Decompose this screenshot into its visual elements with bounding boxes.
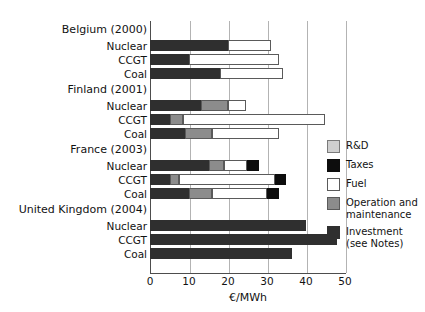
bar-segment bbox=[212, 188, 267, 199]
bar-segment bbox=[189, 54, 279, 65]
legend-swatch-icon bbox=[327, 197, 340, 210]
x-tick-label-50: 50 bbox=[338, 275, 351, 287]
stacked-bar[interactable] bbox=[150, 68, 283, 79]
stacked-bar[interactable] bbox=[150, 188, 279, 199]
bar-segment bbox=[189, 188, 212, 199]
bar-row bbox=[0, 67, 425, 81]
bar-row bbox=[0, 99, 425, 113]
bar-segment bbox=[179, 174, 275, 185]
x-tick-label-40: 40 bbox=[299, 275, 312, 287]
legend-swatch-icon bbox=[327, 178, 340, 191]
bar-segment bbox=[201, 100, 228, 111]
x-axis-title: €/MWh bbox=[150, 291, 346, 304]
legend-label: R&D bbox=[346, 140, 368, 152]
legend-item-2[interactable]: Fuel bbox=[327, 178, 425, 191]
bar-segment bbox=[267, 188, 279, 199]
legend-swatch-icon bbox=[327, 140, 340, 153]
bar-segment bbox=[150, 234, 337, 245]
bar-segment bbox=[247, 160, 259, 171]
stacked-bar[interactable] bbox=[150, 174, 287, 185]
bar-segment bbox=[212, 128, 278, 139]
stacked-bar[interactable] bbox=[150, 160, 259, 171]
bar-segment bbox=[150, 40, 228, 51]
legend-label: Fuel bbox=[346, 178, 366, 190]
bar-segment bbox=[185, 128, 212, 139]
bar-row bbox=[0, 127, 425, 141]
bar-segment bbox=[150, 248, 292, 259]
bar-segment bbox=[150, 220, 306, 231]
bar-segment bbox=[275, 174, 287, 185]
x-axis-ticks: 01020304050 bbox=[0, 275, 425, 291]
bar-segment bbox=[228, 40, 271, 51]
bar-segment bbox=[150, 114, 170, 125]
legend-label: Investment (see Notes) bbox=[346, 226, 403, 249]
x-tick-label-30: 30 bbox=[260, 275, 273, 287]
legend-label: Taxes bbox=[346, 159, 374, 171]
stacked-bar[interactable] bbox=[150, 234, 337, 245]
x-tick-label-0: 0 bbox=[147, 275, 154, 287]
stacked-bar[interactable] bbox=[150, 100, 246, 111]
bar-segment bbox=[150, 68, 220, 79]
bar-segment bbox=[183, 114, 325, 125]
stacked-bar[interactable] bbox=[150, 54, 279, 65]
bar-segment bbox=[150, 174, 170, 185]
bar-segment bbox=[220, 68, 282, 79]
bar-segment bbox=[170, 174, 180, 185]
bar-segment bbox=[228, 100, 246, 111]
bar-segment bbox=[150, 54, 189, 65]
bar-segment bbox=[150, 128, 185, 139]
x-tick-label-20: 20 bbox=[221, 275, 234, 287]
bar-segment bbox=[170, 114, 184, 125]
legend-swatch-icon bbox=[327, 226, 340, 239]
stacked-bar[interactable] bbox=[150, 220, 306, 231]
legend-item-3[interactable]: Operation and maintenance bbox=[327, 197, 425, 220]
bar-segment bbox=[224, 160, 247, 171]
stacked-bar[interactable] bbox=[150, 128, 279, 139]
bar-row bbox=[0, 113, 425, 127]
legend-swatch-icon bbox=[327, 159, 340, 172]
legend-label: Operation and maintenance bbox=[346, 197, 418, 220]
bar-row bbox=[0, 39, 425, 53]
legend-item-4[interactable]: Investment (see Notes) bbox=[327, 226, 425, 249]
bar-segment bbox=[209, 160, 225, 171]
bar-row bbox=[0, 53, 425, 67]
bar-segment bbox=[150, 100, 201, 111]
stacked-bar[interactable] bbox=[150, 114, 326, 125]
legend-item-1[interactable]: Taxes bbox=[327, 159, 425, 172]
bar-segment bbox=[150, 160, 209, 171]
bar-segment bbox=[150, 188, 189, 199]
x-tick-label-10: 10 bbox=[182, 275, 195, 287]
stacked-bar[interactable] bbox=[150, 248, 292, 259]
cost-of-electricity-chart: Belgium (2000)NuclearCCGTCoalFinland (20… bbox=[0, 0, 425, 312]
legend-item-0[interactable]: R&D bbox=[327, 140, 425, 153]
stacked-bar[interactable] bbox=[150, 40, 271, 51]
chart-legend: R&DTaxesFuelOperation and maintenanceInv… bbox=[327, 140, 425, 255]
